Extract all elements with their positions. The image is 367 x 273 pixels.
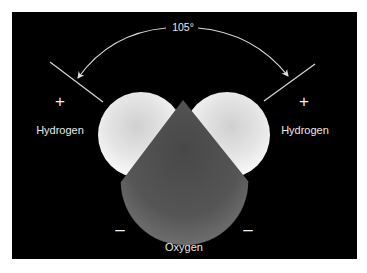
oxygen-negative-charge-right: – bbox=[243, 221, 252, 238]
right-hydrogen-label: Hydrogen bbox=[281, 124, 329, 136]
right-hydrogen-positive-charge: + bbox=[299, 93, 309, 110]
left-hydrogen-label: Hydrogen bbox=[36, 124, 84, 136]
angle-arc-right bbox=[198, 28, 288, 76]
oxygen-label: Oxygen bbox=[165, 241, 203, 253]
water-molecule-diagram bbox=[0, 0, 367, 273]
oxygen-negative-charge-left: – bbox=[115, 221, 124, 238]
bond-angle-label: 105° bbox=[170, 21, 196, 33]
angle-arc-left bbox=[78, 28, 166, 78]
left-hydrogen-positive-charge: + bbox=[55, 93, 65, 110]
